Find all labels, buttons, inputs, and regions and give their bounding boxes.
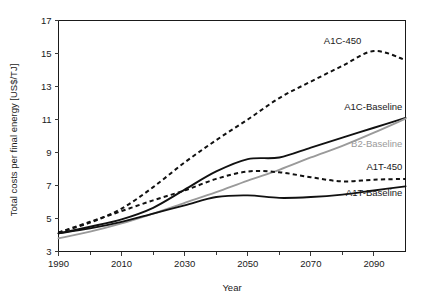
series-label-a1t-baseline: A1T-Baseline — [346, 187, 403, 198]
x-tick-label-2030: 2030 — [174, 258, 195, 269]
y-tick-label-3: 3 — [46, 246, 51, 257]
y-axis-title: Total costs per final energy [US$/TJ] — [8, 64, 19, 217]
x-axis-title: Year — [222, 282, 241, 293]
series-label-a1t-450: A1T-450 — [366, 161, 402, 172]
series-line-a1c-baseline — [59, 118, 406, 234]
series-labels-group: A1C-450A1C-BaselineB2-BaselineA1T-450A1T… — [324, 35, 403, 198]
series-label-a1c-baseline: A1C-Baseline — [344, 101, 402, 112]
x-tick-label-2010: 2010 — [111, 258, 132, 269]
x-tick-label-2050: 2050 — [237, 258, 258, 269]
series-line-a1t-450 — [59, 171, 406, 233]
series-label-b2-baseline: B2-Baseline — [351, 138, 402, 149]
y-tick-label-7: 7 — [46, 180, 51, 191]
y-tick-label-13: 13 — [41, 81, 52, 92]
y-tick-label-17: 17 — [41, 15, 52, 26]
x-tick-label-2070: 2070 — [300, 258, 321, 269]
y-tick-label-9: 9 — [46, 147, 51, 158]
line-chart: 357911131517199020102030205020702090 A1C… — [0, 0, 429, 302]
series-label-a1c-450: A1C-450 — [324, 35, 362, 46]
x-tick-label-1990: 1990 — [48, 258, 69, 269]
y-tick-label-5: 5 — [46, 213, 51, 224]
y-tick-label-11: 11 — [42, 114, 52, 125]
x-tick-label-2090: 2090 — [363, 258, 384, 269]
y-tick-label-15: 15 — [41, 48, 52, 59]
series-line-b2-baseline — [59, 119, 406, 239]
chart-figure: 357911131517199020102030205020702090 A1C… — [0, 0, 429, 302]
